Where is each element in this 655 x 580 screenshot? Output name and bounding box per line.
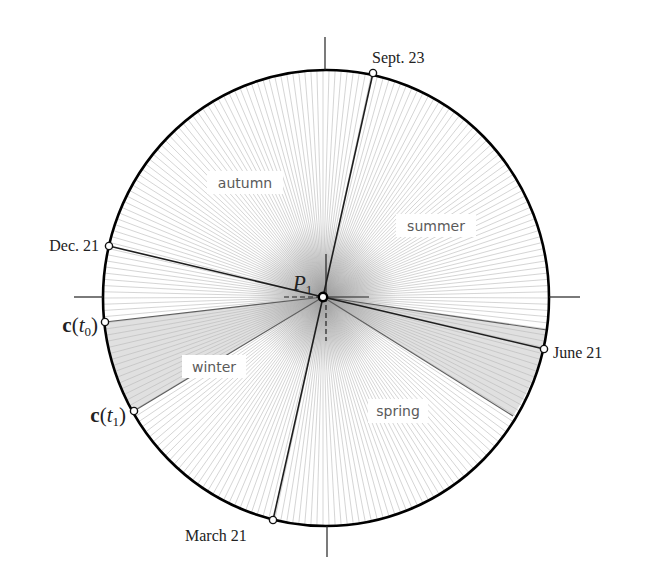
c-t0-close-paren: )	[91, 313, 98, 337]
label-march-21: March 21	[185, 527, 247, 544]
season-label-summer: summer	[396, 214, 476, 237]
point-march-21	[269, 516, 276, 523]
point-june-21	[540, 345, 547, 352]
summer-label: summer	[407, 218, 465, 234]
point-dec-21	[105, 242, 112, 249]
p1-name: P	[292, 271, 306, 295]
c-t0-vector: c	[62, 313, 71, 337]
p1-subscript: 1	[306, 282, 313, 297]
c-t1-open-paren: (	[100, 403, 107, 427]
point-c-t0	[101, 318, 108, 325]
winter-label: winter	[192, 359, 236, 375]
c-t1-vector: c	[90, 403, 99, 427]
c-t1-close-paren: )	[119, 403, 126, 427]
label-dec-21: Dec. 21	[49, 237, 99, 254]
label-c-t1: c(t1)	[90, 403, 126, 429]
autumn-label: autumn	[218, 175, 272, 191]
point-p1-sun	[319, 293, 327, 301]
label-june-21: June 21	[553, 344, 602, 361]
label-sept-23: Sept. 23	[372, 49, 424, 67]
season-label-autumn: autumn	[207, 171, 283, 194]
orbit-diagram: autumn summer winter spring Sept. 23 Dec…	[0, 0, 655, 580]
season-label-winter: winter	[182, 355, 246, 378]
c-t0-open-paren: (	[72, 313, 79, 337]
season-label-spring: spring	[368, 399, 428, 423]
point-sept-23	[369, 69, 376, 76]
spring-label: spring	[376, 403, 420, 419]
label-c-t0: c(t0)	[62, 313, 98, 339]
point-c-t1	[130, 407, 137, 414]
